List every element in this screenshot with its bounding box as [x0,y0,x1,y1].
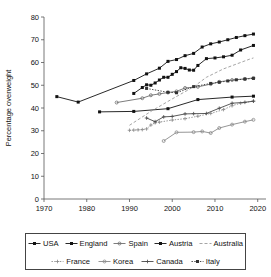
data-point [192,69,195,72]
data-point [179,66,182,69]
chart-page: 0102030405060708019701980199020002010202… [0,0,271,277]
y-tick-label: 0 [35,195,39,204]
y-tick-label: 20 [31,149,39,158]
data-point [252,77,255,80]
y-axis-title: Percentage overweight [4,69,13,147]
data-point [252,33,255,36]
chart-legend: USAEnglandSpainAustriaAustralia FranceKo… [25,233,246,270]
data-point [98,110,101,113]
data-point [145,72,148,75]
legend-label: Austria [169,239,193,248]
y-tick-label: 30 [31,126,39,135]
legend-symbol-australia-icon [199,239,212,248]
y-tick-label: 10 [31,172,39,181]
legend-label: France [66,257,90,266]
legend-item-usa[interactable]: USA [28,239,59,248]
legend-item-australia[interactable]: Australia [199,239,244,248]
legend-symbol-canada-icon [141,257,154,266]
data-point [184,54,187,57]
legend-label: Canada [156,257,183,266]
data-point [141,86,144,89]
data-point [218,41,221,44]
data-point [77,101,80,104]
legend-item-canada[interactable]: Canada [141,257,183,266]
data-point [231,54,234,57]
legend-item-spain[interactable]: Spain [113,239,147,248]
legend-symbol-austria-icon [154,239,167,248]
data-point [132,79,135,82]
series-line [164,120,254,141]
data-point [70,242,73,245]
legend-item-austria[interactable]: Austria [154,239,193,248]
legend-symbol-usa-icon [28,239,41,248]
legend-label: Korea [113,257,133,266]
x-tick-label: 1990 [121,204,138,213]
data-point [252,95,255,98]
data-point [171,73,174,76]
legend-symbol-italy-icon [191,257,204,266]
legend-row-1: USAEnglandSpainAustriaAustralia [26,234,245,252]
data-point [175,91,178,94]
data-point [252,44,255,47]
series-austria [98,95,255,114]
data-point [159,242,162,245]
data-point [184,67,187,70]
data-point [55,95,58,98]
legend-symbol-spain-icon [113,239,126,248]
data-point [175,70,178,73]
data-point [213,56,216,59]
legend-item-italy[interactable]: Italy [191,257,220,266]
data-point [145,87,148,90]
y-tick-label: 70 [31,35,39,44]
data-point [196,64,199,67]
data-point [162,139,165,142]
legend-symbol-korea-icon [98,257,111,266]
legend-row-2: FranceKoreaCanadaItaly [26,252,245,270]
series-canada [145,99,255,123]
data-point [243,34,246,37]
legend-label: Italy [206,257,220,266]
legend-label: England [80,239,108,248]
x-axis-title: Year [145,214,161,215]
y-tick-label: 50 [31,81,39,90]
series-line [129,101,253,130]
legend-item-england[interactable]: England [65,239,108,248]
data-point [149,84,152,87]
data-point [162,76,165,79]
data-point [145,83,148,86]
legend-item-france[interactable]: France [51,257,90,266]
data-point [132,92,135,95]
series-line [57,34,254,102]
y-tick-label: 60 [31,58,39,67]
data-point [209,42,212,45]
data-point [243,78,246,81]
series-spain [115,76,255,104]
data-point [33,242,36,245]
data-point [239,48,242,51]
data-point [166,91,169,94]
data-point [201,46,204,49]
y-tick-label: 40 [31,104,39,113]
data-point [166,76,169,79]
data-point [226,79,229,82]
data-point [196,260,199,263]
legend-item-korea[interactable]: Korea [98,257,133,266]
data-point [222,55,225,58]
data-point [209,82,212,85]
data-point [188,69,191,72]
data-point [218,81,221,84]
legend-symbol-england-icon [65,239,78,248]
line-chart-svg: 0102030405060708019701980199020002010202… [0,0,271,215]
x-tick-label: 1980 [78,204,95,213]
series-france [128,99,256,132]
data-point [205,57,208,60]
data-point [196,98,199,101]
x-tick-label: 2020 [249,204,266,213]
x-tick-label: 1970 [36,204,53,213]
data-point [235,36,238,39]
data-point [175,58,178,61]
legend-label: Spain [128,239,147,248]
series-korea [162,118,255,142]
legend-label: Australia [214,239,244,248]
x-tick-label: 2010 [207,204,224,213]
